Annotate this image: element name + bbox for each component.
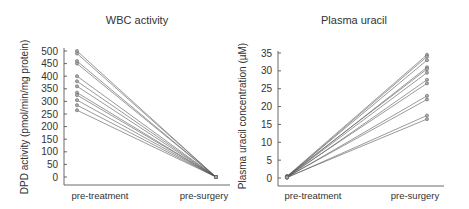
y-tick-label: 300 <box>41 96 58 107</box>
series-patient-10 <box>285 98 428 179</box>
chart-title: Plasma uracil <box>321 14 387 26</box>
data-point <box>75 62 78 65</box>
y-tick-label: 5 <box>266 155 272 166</box>
series-patient-6 <box>75 80 217 179</box>
data-point <box>75 104 78 107</box>
data-line <box>77 81 216 177</box>
y-tick-label: 100 <box>41 146 58 157</box>
y-tick-label: 10 <box>261 137 273 148</box>
figure: WBC activity DPD activity (pmol/min/mg p… <box>0 0 469 209</box>
y-tick-label: 30 <box>261 65 273 76</box>
data-point <box>425 67 428 70</box>
x-tick-label: pre-treatment <box>71 190 128 201</box>
y-tick-label: 250 <box>41 109 58 120</box>
y-tick-label: 150 <box>41 134 58 145</box>
data-line <box>77 76 216 177</box>
data-point <box>285 176 288 179</box>
data-lines <box>75 49 217 178</box>
y-tick-label: 450 <box>41 58 58 69</box>
data-point <box>214 175 217 178</box>
y-tick-label: 50 <box>47 159 59 170</box>
y-tick-label: 25 <box>261 83 273 94</box>
y-tick-label: 35 <box>261 48 273 59</box>
data-line <box>287 60 427 176</box>
data-point <box>425 71 428 74</box>
data-line <box>287 83 427 176</box>
x-tick-label: pre-treatment <box>284 190 341 201</box>
y-axis: 050100150200250300350400450500 <box>41 46 67 186</box>
data-line <box>77 86 216 177</box>
series-patient-4 <box>75 62 217 179</box>
y-tick-label: 200 <box>41 121 58 132</box>
data-point <box>425 59 428 62</box>
data-line <box>287 119 427 177</box>
series-patient-1 <box>285 53 428 178</box>
y-tick-label: 0 <box>52 172 58 183</box>
data-line <box>77 105 216 177</box>
figure-svg: WBC activity DPD activity (pmol/min/mg p… <box>0 0 469 209</box>
data-line <box>77 54 216 177</box>
y-tick-label: 0 <box>266 173 272 184</box>
data-line <box>287 99 427 177</box>
data-point <box>75 99 78 102</box>
data-point <box>75 85 78 88</box>
x-tick-label: pre-surgery <box>180 190 229 201</box>
data-point <box>425 82 428 85</box>
chart-wbc-activity: WBC activity DPD activity (pmol/min/mg p… <box>19 14 230 201</box>
data-point <box>425 117 428 120</box>
y-tick-label: 500 <box>41 46 58 57</box>
data-point <box>75 52 78 55</box>
data-line <box>287 55 427 176</box>
y-tick-label: 20 <box>261 101 273 112</box>
data-point <box>425 114 428 117</box>
series-patient-5 <box>285 67 428 177</box>
y-axis-label: Plasma uracil concentration (µM) <box>237 43 248 189</box>
y-tick-label: 350 <box>41 83 58 94</box>
y-tick-label: 15 <box>261 119 273 130</box>
y-tick-label: 400 <box>41 71 58 82</box>
data-line <box>77 95 216 177</box>
x-tick-label: pre-surgery <box>391 190 440 201</box>
y-axis-label: DPD activity (pmol/min/mg protein) <box>19 40 30 194</box>
data-point <box>75 94 78 97</box>
chart-title: WBC activity <box>106 14 169 26</box>
data-point <box>75 75 78 78</box>
data-line <box>77 100 216 177</box>
series-patient-11 <box>285 114 428 179</box>
data-point <box>75 109 78 112</box>
series-patient-7 <box>75 85 217 179</box>
series-patient-5 <box>75 75 217 179</box>
data-lines <box>285 53 428 179</box>
series-patient-12 <box>285 117 428 178</box>
data-point <box>425 78 428 81</box>
data-point <box>425 98 428 101</box>
y-axis: 05101520253035 <box>261 48 281 187</box>
chart-plasma-uracil: Plasma uracil Plasma uracil concentratio… <box>237 14 444 201</box>
data-point <box>75 80 78 83</box>
data-line <box>287 80 427 178</box>
data-line <box>287 69 427 176</box>
series-patient-6 <box>285 71 428 178</box>
series-patient-7 <box>285 78 428 179</box>
data-point <box>425 55 428 58</box>
data-line <box>77 93 216 177</box>
series-patient-3 <box>285 59 428 179</box>
data-point <box>425 94 428 97</box>
